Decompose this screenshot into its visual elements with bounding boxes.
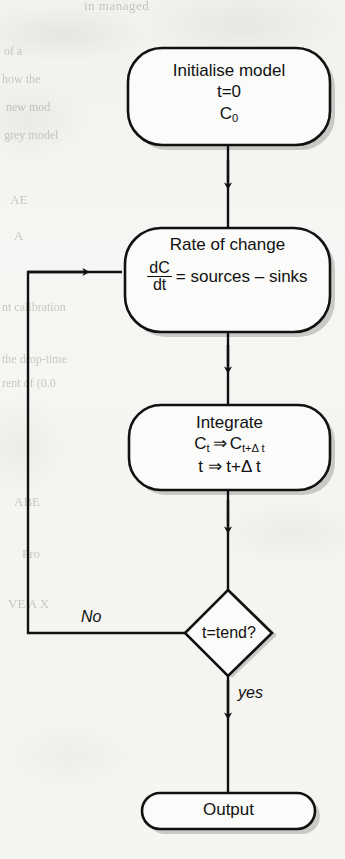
node-initialise-model[interactable] bbox=[128, 48, 330, 145]
node-integrate[interactable] bbox=[129, 405, 330, 490]
node-rate-of-change[interactable] bbox=[125, 228, 330, 332]
node-output[interactable] bbox=[142, 793, 315, 829]
flowchart-page: in managed of a how the new mod grey mod… bbox=[0, 0, 345, 859]
flowchart-canvas bbox=[0, 0, 345, 859]
node-decision-t-equals-tend[interactable] bbox=[185, 590, 272, 676]
